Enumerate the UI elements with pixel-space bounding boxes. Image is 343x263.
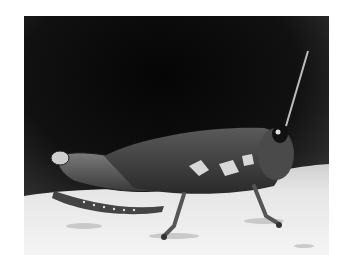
grasshopper-photo bbox=[24, 16, 329, 255]
knee bbox=[51, 151, 69, 165]
photo-illustration bbox=[24, 16, 329, 255]
eye bbox=[272, 125, 288, 143]
